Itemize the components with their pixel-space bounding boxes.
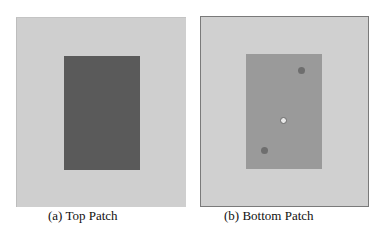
filled-dot-marker	[298, 67, 305, 74]
panel-top-patch	[16, 17, 186, 207]
panel-bottom-patch	[200, 16, 369, 207]
filled-dot-marker	[261, 147, 268, 154]
bottom-patch-rectangle	[246, 54, 322, 169]
caption-top-patch: (a) Top Patch	[48, 208, 118, 224]
hollow-circle-marker	[280, 117, 287, 124]
caption-bottom-patch: (b) Bottom Patch	[224, 208, 314, 224]
top-patch-rectangle	[64, 56, 140, 170]
